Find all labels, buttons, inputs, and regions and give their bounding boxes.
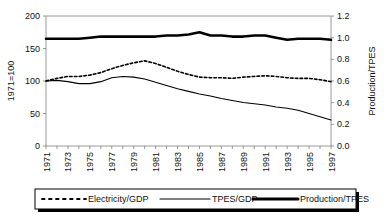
y-axis-right-tick-label: 0.6 [337, 76, 350, 86]
series-line-production-tpes [46, 32, 331, 40]
chart-container: 0501001502000.00.20.40.60.81.01.21971197… [0, 0, 384, 222]
legend-label-production-tpes: Production/TPES [300, 194, 369, 204]
x-axis-tick-label: 1995 [305, 152, 315, 172]
y-axis-right-tick-label: 1.2 [337, 11, 350, 21]
x-axis-tick-label: 1975 [85, 152, 95, 172]
y-axis-right-tick-label: 0.4 [337, 98, 350, 108]
y-axis-right-tick-label: 0.0 [337, 141, 350, 151]
x-axis-tick-label: 1991 [261, 152, 271, 172]
y-axis-left-title: 1971=100 [6, 61, 16, 101]
x-axis-tick-label: 1973 [63, 152, 73, 172]
line-chart: 0501001502000.00.20.40.60.81.01.21971197… [0, 0, 384, 222]
y-axis-left-tick-label: 150 [25, 44, 40, 54]
x-axis-tick-label: 1997 [327, 152, 337, 172]
x-axis-tick-label: 1993 [283, 152, 293, 172]
x-axis-tick-label: 1981 [151, 152, 161, 172]
y-axis-left-tick-label: 50 [30, 109, 40, 119]
x-axis-tick-label: 1979 [129, 152, 139, 172]
series-line-tpes-gdp [46, 76, 331, 120]
x-axis-tick-label: 1987 [217, 152, 227, 172]
legend-label-tpes-gdp: TPES/GDP [212, 194, 258, 204]
x-axis-tick-label: 1977 [107, 152, 117, 172]
series-line-electricity-gdp [46, 61, 331, 82]
y-axis-right-tick-label: 1.0 [337, 33, 350, 43]
y-axis-right-tick-label: 0.8 [337, 54, 350, 64]
y-axis-left-tick-label: 0 [35, 141, 40, 151]
y-axis-left-tick-label: 100 [25, 76, 40, 86]
x-axis-tick-label: 1983 [173, 152, 183, 172]
x-axis-tick-label: 1989 [239, 152, 249, 172]
y-axis-right-title: Production/TPES [367, 46, 377, 115]
x-axis-tick-label: 1971 [42, 152, 52, 172]
y-axis-right-tick-label: 0.2 [337, 119, 350, 129]
legend-label-electricity-gdp: Electricity/GDP [88, 194, 149, 204]
x-axis-tick-label: 1985 [195, 152, 205, 172]
y-axis-left-tick-label: 200 [25, 11, 40, 21]
